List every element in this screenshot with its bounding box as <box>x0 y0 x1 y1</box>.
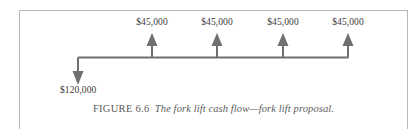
figure-caption-number: FIGURE 6.6 <box>93 103 150 114</box>
inflow-label-1: $45,000 <box>136 17 168 27</box>
inflow-arrow-3 <box>278 33 289 58</box>
inflow-arrowhead <box>343 33 354 46</box>
outflow-arrow-0 <box>73 58 84 86</box>
outflow-label-0: $120,000 <box>60 85 96 95</box>
inflow-arrow-2 <box>212 33 223 58</box>
figure-caption: FIGURE 6.6 The fork lift cash flow—fork … <box>19 103 408 114</box>
inflow-arrowhead <box>212 33 223 46</box>
cash-flow-figure: $45,000 $45,000 $45,000 $45,000 $120,000… <box>0 0 419 129</box>
inflow-label-4: $45,000 <box>332 17 364 27</box>
inflow-arrow-4 <box>343 33 354 58</box>
inflow-arrowhead <box>147 33 158 46</box>
inflow-arrowhead <box>278 33 289 46</box>
inflow-label-2: $45,000 <box>201 17 233 27</box>
figure-caption-text: The fork lift cash flow—fork lift propos… <box>155 103 334 114</box>
inflow-arrow-1 <box>147 33 158 58</box>
outflow-arrowhead <box>73 71 84 85</box>
inflow-label-3: $45,000 <box>267 17 299 27</box>
